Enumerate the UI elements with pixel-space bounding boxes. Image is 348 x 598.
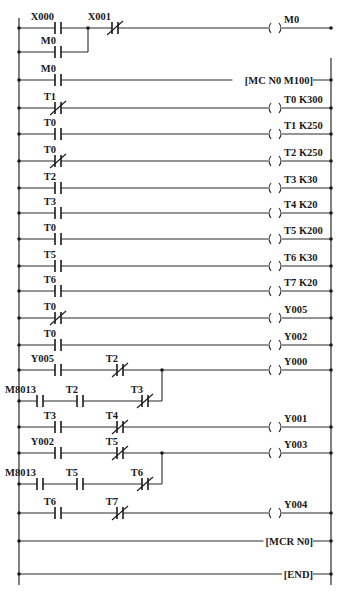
nc-contact-icon: T6 [131,467,153,491]
nc-contact-icon: T1 [44,91,66,115]
contact-label: T0 [44,117,56,128]
output-coil-icon: Y004 [268,499,308,519]
no-contact-icon: T0 [44,222,61,245]
contact-gap [55,182,61,194]
junction-dot [329,368,333,372]
nc-contact-icon: T4 [106,410,128,434]
rung-t3: T2T3 K30 [17,171,333,194]
contact-gap [55,285,61,297]
no-contact-icon: T0 [44,328,61,351]
nc-contact-icon: T2 [106,353,128,377]
contact-label: Y002 [31,436,54,447]
rung-t1: T0T1 K250 [17,117,333,140]
contact-label: T6 [44,274,56,285]
junction-dot [17,343,21,347]
no-contact-icon: M8013 [5,384,43,407]
junction-dot [17,572,21,576]
junction-dot [17,159,21,163]
junction-dot [329,237,333,241]
junction-dot [329,289,333,293]
coil-label: Y000 [284,356,307,367]
contact-gap [55,421,61,433]
no-contact-icon: M0 [41,63,61,86]
coil-label: T3 K30 [284,174,318,185]
nc-contact-icon: X001 [88,11,123,35]
junction-dot [329,186,333,190]
output-coil-icon: T1 K250 [268,120,323,140]
contact-label: X000 [31,11,54,22]
rung-t7: T6T7 K20 [17,274,333,297]
coil-label: Y003 [284,439,307,450]
junction-dot [329,211,333,215]
contact-gap [77,478,83,490]
no-contact-icon: T6 [44,274,61,297]
coil-label: Y005 [284,304,307,315]
no-contact-icon: T3 [44,410,61,433]
rung-y005: T0Y005 [17,301,333,325]
contact-label: T3 [44,410,56,421]
contact-label: M8013 [5,467,36,478]
output-coil-icon: Y005 [268,304,307,324]
contact-gap [55,128,61,140]
contact-gap [55,339,61,351]
contact-label: T2 [106,353,118,364]
contact-label: T7 [106,496,118,507]
instruction-box: [END] [282,567,313,581]
junction-dot [17,264,21,268]
junction-dot [17,237,21,241]
coil-label: T7 K20 [284,277,318,288]
contact-label: T5 [66,467,78,478]
rung-y003: Y002T5M8013T5T6Y003 [5,436,333,491]
junction-dot [17,425,21,429]
contact-gap [55,233,61,245]
output-coil-icon: T3 K30 [268,174,318,194]
output-coil-icon: T4 K20 [268,199,318,219]
no-contact-icon: T5 [66,467,83,490]
contact-gap [37,478,43,490]
coil-label: M0 [284,14,299,25]
junction-dot [17,289,21,293]
junction-dot [86,26,90,30]
contact-gap [55,364,61,376]
coil-label: T5 K200 [284,225,323,236]
junction-dot [17,211,21,215]
contact-gap [55,260,61,272]
junction-dot [160,451,164,455]
output-coil-icon: T0 K300 [268,94,323,114]
nc-contact-icon: T0 [44,144,66,168]
no-contact-icon: T2 [66,384,83,407]
no-contact-icon: X000 [31,11,61,34]
coil-label: T1 K250 [284,120,323,131]
instruction-label: [MCR N0] [265,536,313,547]
rung-end: [END] [17,567,333,581]
contact-label: T2 [44,171,56,182]
contact-label: M0 [41,63,56,74]
rung-mc: M0[MC N0 M100] [17,63,333,87]
nc-contact-icon: T7 [106,496,128,520]
rung-mcr: [MCR N0] [17,534,333,548]
junction-dot [329,572,333,576]
rung-y004: T6T7Y004 [17,496,333,520]
junction-dot [17,106,21,110]
contact-gap [77,395,83,407]
contact-label: T6 [44,496,56,507]
nc-contact-icon: T3 [131,384,153,408]
output-coil-icon: Y002 [268,331,307,351]
contact-label: T6 [131,467,143,478]
contact-label: T5 [106,436,118,447]
contact-label: Y005 [31,353,54,364]
junction-dot [329,132,333,136]
junction-dot [329,343,333,347]
contact-label: T2 [66,384,78,395]
junction-dot [160,368,164,372]
contact-gap [55,74,61,86]
contact-label: T3 [131,384,143,395]
output-coil-icon: T5 K200 [268,225,323,245]
instruction-label: [END] [284,569,313,580]
no-contact-icon: T0 [44,117,61,140]
junction-dot [17,482,21,486]
no-contact-icon: T2 [44,171,61,194]
ladder-canvas: X000X001M0M0M0[MC N0 M100]T1T0 K300T0T1 … [0,0,348,598]
output-coil-icon: M0 [268,14,299,34]
contact-label: T0 [44,301,56,312]
